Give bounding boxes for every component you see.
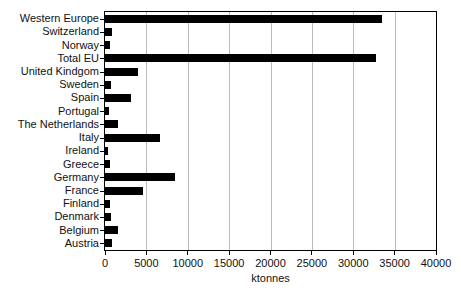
x-tick-15000 bbox=[229, 251, 230, 255]
y-label-total-eu: Total EU bbox=[57, 52, 99, 65]
y-tick-united-kindgom bbox=[100, 72, 104, 73]
plot-area: 0500010000150002000025000300003500040000… bbox=[104, 11, 437, 251]
bar-austria bbox=[105, 239, 112, 247]
x-tick-40000 bbox=[436, 251, 437, 255]
y-label-belgium: Belgium bbox=[59, 224, 99, 237]
x-axis-title: ktonnes bbox=[251, 272, 290, 284]
x-tick-label-5000: 5000 bbox=[134, 257, 158, 269]
y-tick-switzerland bbox=[100, 32, 104, 33]
bar-chart: 0500010000150002000025000300003500040000… bbox=[0, 0, 461, 295]
x-tick-label-0: 0 bbox=[102, 257, 108, 269]
x-tick-label-15000: 15000 bbox=[214, 257, 245, 269]
x-tick-5000 bbox=[146, 251, 147, 255]
y-tick-spain bbox=[100, 98, 104, 99]
y-tick-total-eu bbox=[100, 58, 104, 59]
gridline-25000 bbox=[312, 12, 313, 250]
y-tick-sweden bbox=[100, 85, 104, 86]
y-tick-denmark bbox=[100, 217, 104, 218]
bar-the-netherlands bbox=[105, 120, 118, 128]
bar-finland bbox=[105, 200, 110, 208]
y-label-western-europe: Western Europe bbox=[20, 12, 99, 25]
x-tick-0 bbox=[105, 251, 106, 255]
x-tick-25000 bbox=[311, 251, 312, 255]
bar-spain bbox=[105, 94, 131, 102]
x-tick-label-40000: 40000 bbox=[421, 257, 452, 269]
y-label-greece: Greece bbox=[63, 158, 99, 171]
y-tick-greece bbox=[100, 164, 104, 165]
y-tick-germany bbox=[100, 177, 104, 178]
y-label-norway: Norway bbox=[62, 39, 99, 52]
bar-belgium bbox=[105, 226, 118, 234]
bar-western-europe bbox=[105, 15, 382, 23]
gridline-10000 bbox=[188, 12, 189, 250]
y-label-austria: Austria bbox=[65, 237, 99, 250]
bar-denmark bbox=[105, 213, 111, 221]
gridline-30000 bbox=[353, 12, 354, 250]
bar-france bbox=[105, 187, 143, 195]
y-tick-france bbox=[100, 191, 104, 192]
gridline-20000 bbox=[271, 12, 272, 250]
y-label-portugal: Portugal bbox=[58, 105, 99, 118]
gridline-35000 bbox=[395, 12, 396, 250]
y-tick-italy bbox=[100, 138, 104, 139]
x-tick-20000 bbox=[270, 251, 271, 255]
y-label-finland: Finland bbox=[63, 197, 99, 210]
y-label-spain: Spain bbox=[71, 91, 99, 104]
bar-norway bbox=[105, 41, 110, 49]
y-label-sweden: Sweden bbox=[59, 78, 99, 91]
x-tick-label-20000: 20000 bbox=[255, 257, 286, 269]
y-label-germany: Germany bbox=[54, 171, 99, 184]
bar-sweden bbox=[105, 81, 111, 89]
bar-switzerland bbox=[105, 28, 112, 36]
y-tick-belgium bbox=[100, 230, 104, 231]
bar-italy bbox=[105, 134, 160, 142]
gridline-5000 bbox=[146, 12, 147, 250]
bar-ireland bbox=[105, 147, 108, 155]
y-label-the-netherlands: The Netherlands bbox=[18, 118, 99, 131]
y-tick-portugal bbox=[100, 111, 104, 112]
bar-greece bbox=[105, 160, 110, 168]
y-label-ireland: Ireland bbox=[65, 144, 99, 157]
bar-united-kindgom bbox=[105, 68, 138, 76]
x-tick-label-30000: 30000 bbox=[338, 257, 369, 269]
y-tick-austria bbox=[100, 243, 104, 244]
y-tick-finland bbox=[100, 204, 104, 205]
bar-portugal bbox=[105, 107, 109, 115]
gridline-15000 bbox=[229, 12, 230, 250]
y-tick-the-netherlands bbox=[100, 124, 104, 125]
bar-total-eu bbox=[105, 54, 376, 62]
y-tick-ireland bbox=[100, 151, 104, 152]
y-label-denmark: Denmark bbox=[54, 210, 99, 223]
x-tick-label-10000: 10000 bbox=[172, 257, 203, 269]
y-tick-norway bbox=[100, 45, 104, 46]
x-tick-10000 bbox=[187, 251, 188, 255]
x-tick-label-35000: 35000 bbox=[379, 257, 410, 269]
y-label-united-kindgom: United Kindgom bbox=[21, 65, 99, 78]
x-tick-30000 bbox=[353, 251, 354, 255]
x-tick-label-25000: 25000 bbox=[297, 257, 328, 269]
y-label-france: France bbox=[65, 184, 99, 197]
x-tick-35000 bbox=[394, 251, 395, 255]
y-label-italy: Italy bbox=[79, 131, 99, 144]
y-tick-western-europe bbox=[100, 19, 104, 20]
bar-germany bbox=[105, 173, 175, 181]
y-label-switzerland: Switzerland bbox=[42, 25, 99, 38]
